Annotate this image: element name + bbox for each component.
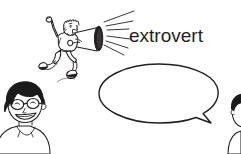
cartoon-illustration-scene: extrovert (0, 0, 241, 154)
speech-bubble (99, 64, 218, 123)
illustration-artwork (0, 0, 241, 154)
background-arc-line (57, 78, 75, 82)
listening-boy-figure (0, 82, 50, 154)
shouting-person-figure (39, 17, 82, 79)
extrovert-label: extrovert (129, 25, 203, 46)
cropped-person-right-figure (228, 94, 241, 154)
